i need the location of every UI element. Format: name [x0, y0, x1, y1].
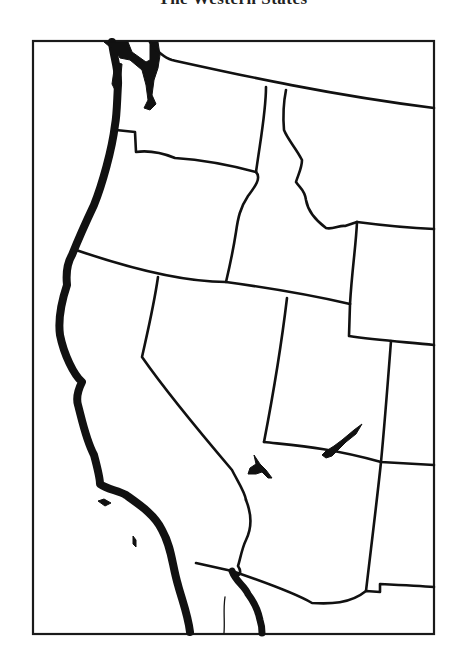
lake-mead	[248, 455, 272, 478]
channel-islands	[98, 499, 111, 506]
oregon-california-border	[76, 250, 350, 304]
california-nevada-border	[142, 277, 246, 500]
mexico-border	[232, 571, 434, 603]
map-frame	[33, 41, 434, 634]
utah-wyoming-colorado-border	[349, 304, 434, 345]
baja-west-edge	[224, 597, 225, 633]
washington-canada-border	[150, 42, 434, 108]
arizona-newmexico-border	[366, 462, 381, 591]
oregon-idaho-border	[226, 172, 258, 282]
nevada-utah-border	[264, 298, 287, 442]
western-states-map	[0, 0, 466, 668]
four-corners-parallel	[264, 442, 434, 465]
san-clemente-island	[133, 536, 136, 547]
colorado-river-border	[196, 500, 251, 575]
washington-oregon-border	[116, 130, 256, 172]
montana-wyoming-border	[357, 222, 434, 229]
washington-idaho-border	[256, 87, 266, 172]
utah-colorado-border	[381, 341, 391, 462]
idaho-wyoming-border	[350, 222, 357, 304]
idaho-montana-border	[283, 90, 357, 228]
